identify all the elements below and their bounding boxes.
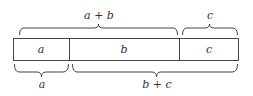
top-brace-c	[183, 24, 238, 35]
bottom-brace-b-plus-c	[73, 64, 238, 77]
segment-b-label: b	[120, 43, 127, 56]
bottom-brace-a-label: a	[39, 78, 46, 91]
top-brace-a-plus-b	[20, 24, 178, 35]
segment-a-label: a	[38, 43, 45, 56]
bottom-brace-b-plus-c-label: b + c	[142, 78, 171, 91]
top-brace-a-plus-b-label: a + b	[84, 9, 114, 22]
top-brace-c-label: c	[207, 9, 213, 22]
segment-diagram: a b c a + b c a b + c	[0, 0, 253, 96]
bottom-brace-a	[15, 64, 69, 77]
segment-c-label: c	[206, 43, 212, 56]
